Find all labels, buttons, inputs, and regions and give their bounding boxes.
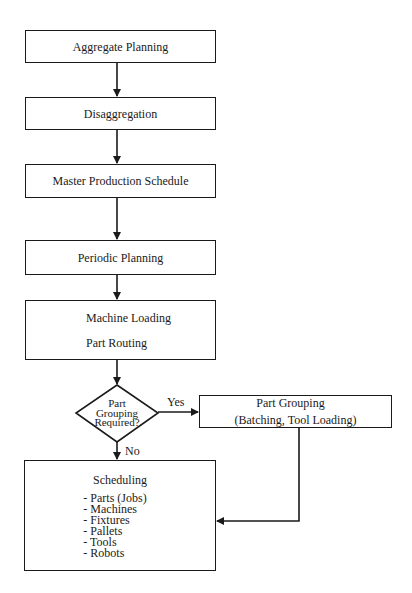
machine-loading-box: Machine Loading Part Routing — [25, 300, 216, 360]
aggregate-planning-label: Aggregate Planning — [73, 40, 169, 54]
no-edge-label: No — [125, 445, 140, 458]
disaggregation-box: Disaggregation — [25, 97, 216, 130]
periodic-planning-box: Periodic Planning — [25, 240, 216, 275]
decision-label: Part Grouping Required? — [82, 399, 152, 428]
aggregate-planning-box: Aggregate Planning — [25, 30, 216, 63]
master-production-schedule-label: Master Production Schedule — [53, 174, 189, 188]
master-production-schedule-box: Master Production Schedule — [25, 164, 216, 198]
scheduling-item-robots: - Robots — [83, 548, 124, 559]
machine-loading-label: Machine Loading — [86, 311, 171, 325]
part-grouping-label: Part Grouping — [256, 396, 324, 410]
scheduling-title: Scheduling — [93, 473, 147, 487]
disaggregation-label: Disaggregation — [84, 107, 157, 121]
scheduling-resource-list: - Parts (Jobs) - Machines - Fixtures - P… — [83, 493, 146, 559]
decision-line-3: Required? — [82, 418, 152, 428]
part-grouping-box: Part Grouping (Batching, Tool Loading) — [199, 395, 392, 428]
periodic-planning-label: Periodic Planning — [78, 251, 164, 265]
part-routing-label: Part Routing — [86, 336, 147, 350]
scheduling-box: Scheduling - Parts (Jobs) - Machines - F… — [24, 460, 216, 571]
part-grouping-detail-label: (Batching, Tool Loading) — [235, 413, 357, 427]
arrow-part-grouping-to-scheduling — [217, 428, 299, 521]
yes-edge-label: Yes — [167, 396, 184, 409]
